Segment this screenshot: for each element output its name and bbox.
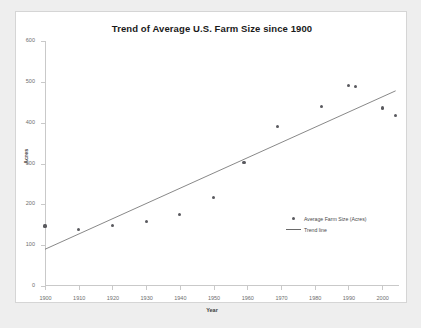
legend-label-trend: Trend line (302, 227, 327, 233)
data-point (354, 85, 357, 88)
y-tick-label: 600 (26, 37, 35, 43)
x-tick-1970: 1970 (281, 286, 282, 290)
x-tick-label: 1990 (343, 295, 355, 301)
y-tick-label: 100 (26, 241, 35, 247)
x-tick-label: 1980 (309, 295, 321, 301)
x-tick-2000: 2000 (382, 286, 383, 290)
data-point (320, 105, 323, 108)
y-tick-label: 0 (32, 282, 35, 288)
x-tick-label: 1910 (73, 295, 85, 301)
x-tick-1900: 1900 (45, 286, 46, 290)
legend-marker-icon (284, 217, 302, 220)
legend-item-trend: Trend line (284, 224, 366, 235)
y-tick-label: 300 (26, 160, 35, 166)
trend-line (45, 41, 399, 286)
x-tick-1940: 1940 (180, 286, 181, 290)
y-tick-label: 400 (26, 119, 35, 125)
x-tick-1930: 1930 (146, 286, 147, 290)
y-tick-label: 500 (26, 78, 35, 84)
x-tick-label: 1970 (275, 295, 287, 301)
plot-area: 0100200300400500600 19001910192019301940… (45, 41, 399, 286)
chart-card: Trend of Average U.S. Farm Size since 19… (15, 11, 407, 303)
data-point (43, 224, 46, 227)
y-tick-label: 200 (26, 200, 35, 206)
x-tick-label: 2000 (377, 295, 389, 301)
x-tick-label: 1930 (141, 295, 153, 301)
x-tick-label: 1960 (242, 295, 254, 301)
x-tick-label: 1900 (39, 295, 51, 301)
x-tick-label: 1950 (208, 295, 220, 301)
data-point (111, 224, 114, 227)
x-tick-1990: 1990 (348, 286, 349, 290)
x-tick-label: 1940 (174, 295, 186, 301)
chart-legend: Average Farm Size (Acres) Trend line (284, 213, 366, 235)
x-tick-1950: 1950 (214, 286, 215, 290)
chart-title: Trend of Average U.S. Farm Size since 19… (16, 23, 408, 34)
legend-item-scatter: Average Farm Size (Acres) (284, 213, 366, 224)
data-point (381, 106, 384, 109)
x-tick-label: 1920 (107, 295, 119, 301)
data-point (242, 161, 245, 164)
x-tick-1960: 1960 (247, 286, 248, 290)
x-tick-1920: 1920 (112, 286, 113, 290)
legend-line-icon (284, 229, 302, 230)
legend-label-scatter: Average Farm Size (Acres) (302, 216, 366, 222)
x-tick-1980: 1980 (315, 286, 316, 290)
x-axis-title: Year (16, 307, 408, 313)
x-tick-1910: 1910 (79, 286, 80, 290)
